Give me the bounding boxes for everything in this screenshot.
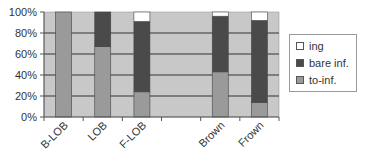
plot-area [44, 12, 279, 117]
bar-segment [212, 72, 228, 117]
bar-segment [95, 12, 111, 47]
bar-segment [212, 16, 228, 72]
legend-swatch-ing [296, 42, 304, 50]
legend-label: bare inf. [309, 57, 349, 69]
legend-label: ing [309, 40, 324, 52]
bar-segment [251, 102, 267, 117]
x-tick-label: LOB [85, 119, 109, 143]
y-tick-label: 20% [15, 90, 37, 102]
x-axis: B-LOBLOBF-LOBBrownFrown [38, 117, 279, 151]
y-tick-label: 100% [9, 6, 37, 18]
x-tick-label: F-LOB [117, 119, 148, 150]
bar-segment [95, 47, 111, 117]
bar-segment [212, 12, 228, 16]
x-tick-label: Frown [236, 119, 266, 149]
y-tick-label: 40% [15, 69, 37, 81]
bar-segment [251, 20, 267, 102]
y-tick-label: 0% [21, 111, 37, 123]
x-tick-label: Brown [196, 119, 227, 150]
legend-swatch-bare-inf [296, 59, 304, 67]
bar-segment [251, 12, 267, 20]
legend-item-ing: ing [296, 39, 324, 53]
y-axis: 0%20%40%60%80%100% [9, 6, 44, 123]
x-tick-label: B-LOB [38, 119, 70, 151]
y-tick-label: 80% [15, 27, 37, 39]
bar-segment [134, 21, 150, 91]
bar-segment [56, 12, 72, 117]
bar-segment [134, 92, 150, 117]
y-tick-label: 60% [15, 48, 37, 60]
legend: ing bare inf. to-inf. [289, 34, 357, 92]
plot-background [44, 12, 279, 117]
legend-label: to-inf. [309, 74, 337, 86]
bar-segment [134, 12, 150, 21]
legend-item-bare-inf: bare inf. [296, 56, 349, 70]
legend-item-to-inf: to-inf. [296, 73, 337, 87]
legend-swatch-to-inf [296, 76, 304, 84]
